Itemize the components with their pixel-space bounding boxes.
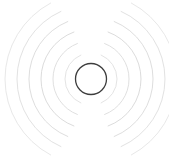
wave-diagram-canvas bbox=[0, 0, 169, 159]
source-circle bbox=[76, 64, 107, 95]
radio-wave-figure: Radio wave emission diagram A small dark… bbox=[0, 0, 169, 159]
